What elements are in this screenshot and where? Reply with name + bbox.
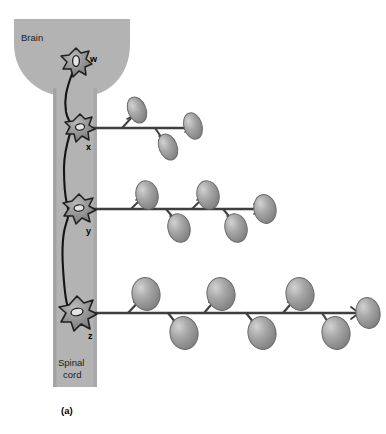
spinal-cord-label-line1: Spinal bbox=[58, 357, 84, 368]
neuron-w-label: w bbox=[89, 54, 98, 64]
panel-label: (a) bbox=[61, 405, 73, 416]
muscle-fiber bbox=[194, 178, 222, 211]
neuron-z-label: z bbox=[88, 331, 93, 341]
spinal-cord-label-line2: cord bbox=[63, 369, 81, 380]
spinal-cord-edge-shade-right bbox=[94, 88, 98, 387]
motor-neuron-diagram: Brain Spinal cord w bbox=[0, 0, 386, 434]
muscle-fiber bbox=[222, 211, 250, 244]
brain-label: Brain bbox=[21, 32, 43, 43]
neuron-x-label: x bbox=[86, 142, 91, 152]
muscle-fiber bbox=[180, 110, 205, 141]
neuron-w-nucleus bbox=[73, 56, 80, 67]
neuron-z: z bbox=[59, 275, 383, 351]
muscle-fiber bbox=[133, 178, 161, 211]
spinal-cord-edge-shade bbox=[53, 88, 57, 387]
muscle-fiber bbox=[353, 296, 382, 331]
muscle-fiber bbox=[319, 314, 352, 351]
muscle-fiber bbox=[165, 211, 193, 244]
muscle-fiber bbox=[251, 193, 279, 226]
neuron-y-label: y bbox=[86, 226, 91, 236]
diagram-canvas: Brain Spinal cord w bbox=[0, 0, 386, 434]
